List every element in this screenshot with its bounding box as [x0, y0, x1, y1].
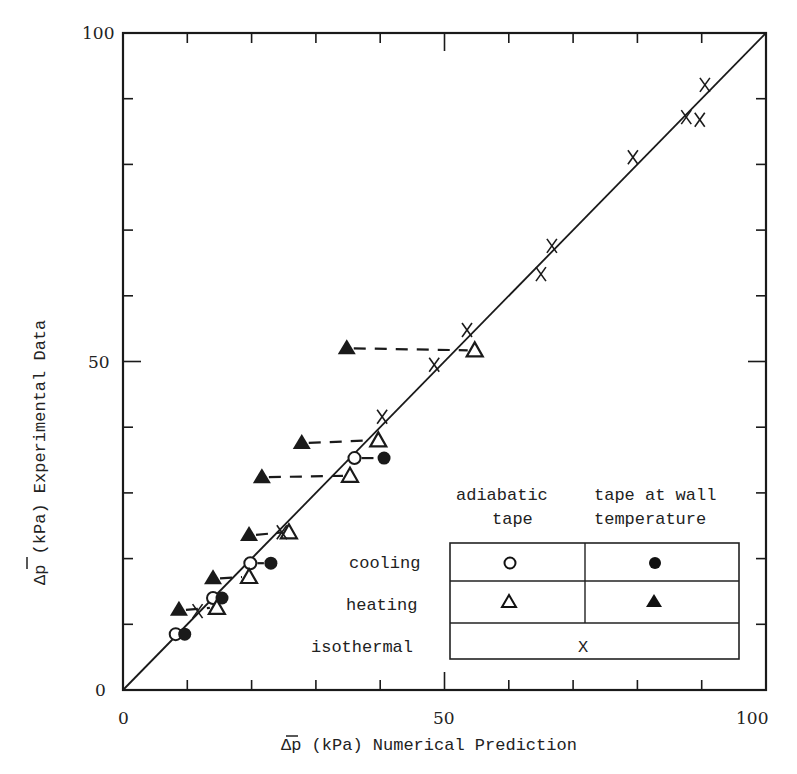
- x-tick-0: 0: [118, 708, 129, 728]
- legend-header-adiabatic-2: tape: [492, 510, 533, 529]
- x-tick-50: 50: [433, 708, 455, 728]
- legend: adiabatic tape tape at wall temperature …: [311, 486, 739, 659]
- y-tick-100: 100: [82, 23, 114, 43]
- dashed-connector: [220, 577, 242, 578]
- x-axis-title: Δp (kPa) Numerical Prediction: [281, 736, 577, 755]
- x-tick-100: 100: [736, 708, 768, 728]
- dashed-connector: [354, 348, 468, 350]
- open-circle-marker: [244, 557, 256, 569]
- legend-open-triangle-icon: [502, 595, 516, 607]
- dashed-connector: [309, 440, 372, 443]
- legend-header-wall: tape at wall: [594, 486, 716, 505]
- dashed-connector: [256, 532, 282, 535]
- legend-filled-triangle-icon: [646, 594, 662, 607]
- filled-triangle-marker: [240, 526, 258, 541]
- filled-triangle-marker: [293, 434, 311, 449]
- plot-area: [123, 33, 766, 690]
- legend-row-isothermal: isothermal: [311, 638, 413, 657]
- y-tick-50: 50: [88, 352, 110, 372]
- filled-circle-marker: [178, 628, 191, 641]
- open-triangle-marker: [342, 468, 358, 482]
- open-circle-marker: [348, 452, 360, 464]
- filled-circle-marker: [264, 557, 277, 570]
- open-triangle-marker: [467, 342, 483, 356]
- legend-row-cooling: cooling: [349, 554, 420, 573]
- legend-open-circle-icon: [505, 558, 516, 569]
- legend-header-adiabatic: adiabatic: [456, 486, 548, 505]
- filled-circle-marker: [378, 452, 391, 465]
- reference-line-y-equals-x: [123, 33, 766, 690]
- legend-header-wall-2: temperature: [594, 510, 706, 529]
- legend-x-icon: X: [578, 638, 588, 657]
- filled-triangle-marker: [170, 601, 188, 616]
- filled-triangle-marker: [204, 569, 222, 584]
- legend-box: [450, 543, 739, 659]
- legend-filled-circle-icon: [649, 557, 661, 569]
- svg-text:Δp (kPa) Experimental Data: Δp (kPa) Experimental Data: [31, 320, 50, 585]
- svg-text:Δp (kPa) Numerical Prediction: Δp (kPa) Numerical Prediction: [281, 736, 577, 755]
- scatter-chart: 100 50 0 0 50 100 Δp (kPa) Numerical Pre…: [0, 0, 797, 774]
- filled-triangle-marker: [253, 468, 271, 483]
- open-triangle-marker: [241, 569, 257, 583]
- y-tick-0: 0: [95, 680, 106, 700]
- legend-row-heating: heating: [346, 596, 417, 615]
- filled-triangle-marker: [338, 339, 356, 354]
- y-axis-title: Δp (kPa) Experimental Data: [27, 320, 50, 585]
